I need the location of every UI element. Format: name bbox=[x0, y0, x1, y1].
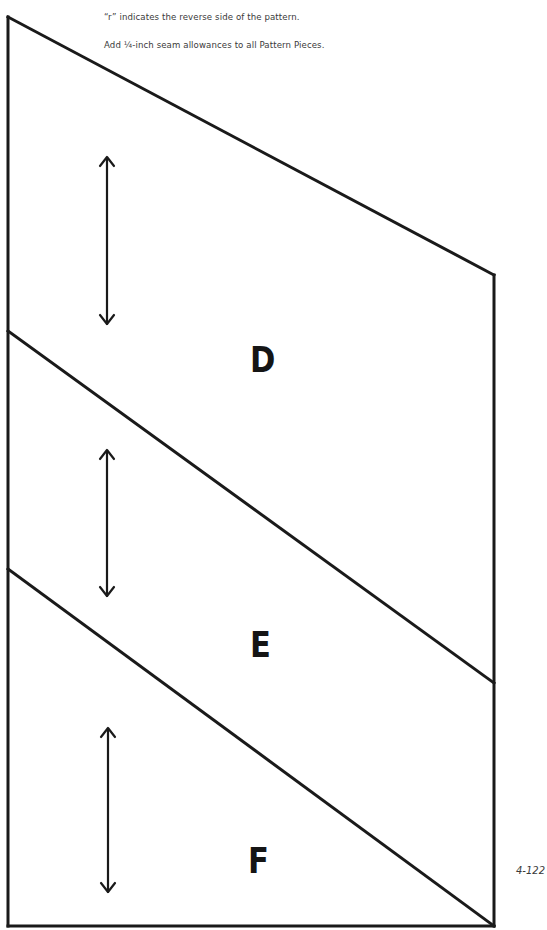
pattern-diagram bbox=[0, 0, 547, 930]
grainline-arrow-icon-e bbox=[100, 450, 114, 596]
top-diagonal-line bbox=[8, 17, 494, 275]
piece-label-e: E bbox=[250, 627, 271, 663]
piece-label-d: D bbox=[250, 342, 275, 378]
piece-label-f: F bbox=[248, 843, 269, 879]
grainline-arrow-icon-d bbox=[100, 157, 114, 324]
grainline-arrow-icon-f bbox=[101, 728, 115, 892]
page-number: 4-122 bbox=[516, 865, 545, 876]
